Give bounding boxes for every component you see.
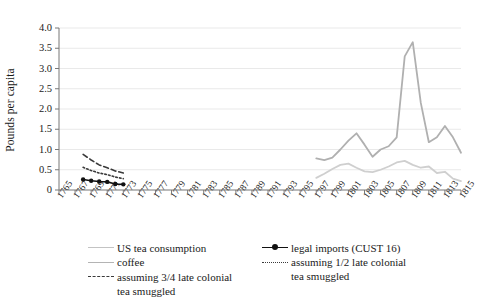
line-solid-lighter-icon — [88, 256, 114, 270]
line-black-marker-icon — [262, 241, 288, 255]
data-point-marker — [97, 179, 101, 183]
legend-item-half-smuggled[interactable]: assuming 1/2 late colonial — [262, 256, 406, 270]
series-line — [316, 161, 461, 181]
data-point-marker — [89, 178, 93, 182]
data-point-marker — [121, 182, 125, 186]
data-point-marker — [113, 182, 117, 186]
legend-item-legal-imports[interactable]: legal imports (CUST 16) — [262, 241, 406, 255]
legend-column-left: US tea consumption coffee assuming 3/4 l… — [88, 241, 232, 298]
line-dotted-icon — [262, 256, 288, 270]
plot-area — [0, 0, 478, 308]
legend-item-us-tea-consumption[interactable]: US tea consumption — [88, 241, 232, 255]
data-point-marker — [105, 180, 109, 184]
series-line — [316, 42, 461, 160]
legend-column-right: legal imports (CUST 16) assuming 1/2 lat… — [262, 241, 406, 284]
legend-item-half-smuggled-line2: tea smuggled — [262, 270, 406, 284]
series-line — [83, 167, 123, 178]
legend-item-three-quarters-smuggled-line2: tea smuggled — [88, 285, 232, 299]
line-solid-light-icon — [88, 241, 114, 255]
chart-figure: Pounds per capita 00.51.01.52.02.53.03.5… — [0, 0, 478, 308]
data-point-marker — [81, 177, 85, 181]
line-dashed-icon — [88, 270, 114, 284]
legend-item-coffee[interactable]: coffee — [88, 256, 232, 270]
legend-item-three-quarters-smuggled[interactable]: assuming 3/4 late colonial — [88, 270, 232, 284]
